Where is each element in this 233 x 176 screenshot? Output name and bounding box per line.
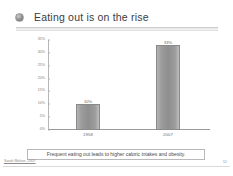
y-axis-tick-mark bbox=[48, 104, 50, 105]
presentation-slide: Eating out is on the rise 0%5%10%15%20%2… bbox=[0, 0, 233, 176]
y-axis-tick-mark bbox=[48, 40, 50, 41]
footer-divider bbox=[3, 166, 230, 167]
y-axis-tick-label: 0% bbox=[40, 128, 48, 132]
y-axis-tick-label: 10% bbox=[38, 103, 48, 107]
caption-box: Frequent eating out leads to higher calo… bbox=[27, 149, 205, 160]
page-title: Eating out is on the rise bbox=[34, 11, 149, 23]
y-axis-tick-mark bbox=[48, 130, 50, 131]
y-axis-tick-mark bbox=[48, 91, 50, 92]
bar-1958: 10%1958 bbox=[76, 104, 100, 130]
page-number: 11 bbox=[223, 160, 227, 164]
y-axis-tick-mark bbox=[48, 65, 50, 66]
caption-text: Frequent eating out leads to higher calo… bbox=[47, 152, 186, 157]
footer-credit[interactable]: Sarah Mahan, 2007 bbox=[4, 160, 36, 164]
y-axis-tick-mark bbox=[48, 78, 50, 79]
title-divider-secondary bbox=[16, 30, 218, 31]
y-axis-tick-label: 25% bbox=[38, 64, 48, 68]
circle-bullet-icon bbox=[15, 13, 24, 22]
bar-chart: 0%5%10%15%20%25%30%35%10%195833%2007 bbox=[26, 36, 210, 146]
y-axis-tick-mark bbox=[48, 117, 50, 118]
y-axis-tick-label: 20% bbox=[38, 77, 48, 81]
y-axis-tick-label: 15% bbox=[38, 90, 48, 94]
slide-title-row: Eating out is on the rise bbox=[0, 8, 233, 26]
plot-area: 0%5%10%15%20%25%30%35%10%195833%2007 bbox=[48, 40, 208, 130]
y-axis-tick-label: 5% bbox=[40, 115, 48, 119]
bar-value-label: 33% bbox=[164, 41, 172, 45]
x-axis-category-label: 2007 bbox=[163, 133, 173, 137]
y-axis-tick-label: 30% bbox=[38, 51, 48, 55]
y-axis-tick-mark bbox=[48, 52, 50, 53]
y-axis-tick-label: 35% bbox=[38, 38, 48, 42]
bar-2007: 33%2007 bbox=[156, 45, 180, 130]
bar-value-label: 10% bbox=[84, 100, 92, 104]
x-axis-category-label: 1958 bbox=[83, 133, 93, 137]
